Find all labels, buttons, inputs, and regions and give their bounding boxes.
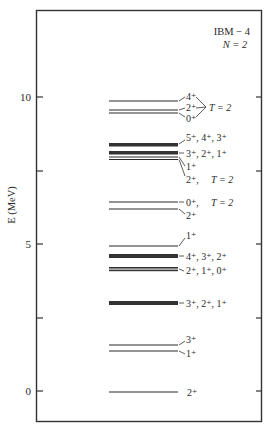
label-1plus-mid: 1⁺ bbox=[186, 230, 196, 241]
n-label: N = 2 bbox=[222, 39, 248, 50]
label-321-lower: 3⁺, 2⁺, 1⁺ bbox=[186, 298, 227, 309]
label-543: 5⁺, 4⁺, 3⁺ bbox=[186, 132, 227, 143]
energy-levels bbox=[109, 101, 178, 392]
multiplet-321-lower bbox=[109, 301, 178, 305]
multiplet-432 bbox=[109, 254, 178, 258]
model-title: IBM − 4 bbox=[214, 26, 251, 37]
label-T2-group: T = 2 bbox=[209, 102, 231, 113]
label-2plus-ground: 2⁺ bbox=[187, 387, 197, 398]
label-0plus-T2-mid-T: T = 2 bbox=[211, 197, 233, 208]
tick-label-10: 10 bbox=[20, 91, 32, 103]
left-axis-ticks bbox=[37, 97, 43, 391]
label-0plus-T2-mid: 0⁺, bbox=[186, 197, 199, 208]
plot-frame bbox=[37, 11, 262, 422]
multiplet-210-b bbox=[109, 270, 178, 272]
multiplet-210-a bbox=[109, 267, 178, 269]
tick-label-5: 5 bbox=[26, 238, 32, 250]
y-axis-label: E (MeV) bbox=[6, 186, 18, 224]
label-1plus-low: 1⁺ bbox=[186, 348, 196, 359]
label-321-upper: 3⁺, 2⁺, 1⁺ bbox=[186, 148, 227, 159]
multiplet-321-upper bbox=[109, 151, 178, 155]
label-3plus-low: 3⁺ bbox=[186, 334, 196, 345]
label-2plus-T2: 2⁺ bbox=[186, 102, 196, 113]
label-210: 2⁺, 1⁺, 0⁺ bbox=[186, 265, 227, 276]
label-2plus-mid: 2⁺ bbox=[186, 210, 196, 221]
label-0plus-T2: 0⁺ bbox=[186, 113, 196, 124]
label-2plus-T2-mid-T: T = 2 bbox=[211, 174, 233, 185]
label-1plus-upper: 1⁺ bbox=[186, 161, 196, 172]
label-2plus-T2-mid: 2⁺, bbox=[186, 174, 199, 185]
label-432: 4⁺, 3⁺, 2⁺ bbox=[186, 251, 227, 262]
multiplet-543 bbox=[109, 143, 178, 147]
label-4plus-T2: 4⁺ bbox=[186, 91, 196, 102]
level-scheme-diagram: 10 5 0 E (MeV) IBM − 4 N = 2 bbox=[0, 0, 272, 432]
tick-label-0: 0 bbox=[26, 385, 32, 397]
